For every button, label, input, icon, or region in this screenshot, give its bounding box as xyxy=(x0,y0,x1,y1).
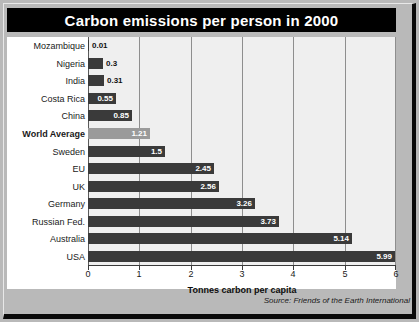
plot-area: 0.010.30.310.550.851.211.52.452.563.263.… xyxy=(88,37,396,265)
bar-value-label: 1.21 xyxy=(131,128,147,139)
bar-value-label: 0.55 xyxy=(97,93,113,104)
bar xyxy=(88,58,103,69)
bar-value-label: 0.31 xyxy=(107,75,123,86)
gridline-2 xyxy=(191,37,192,265)
gridline-4 xyxy=(293,37,294,265)
chart-title-banner: Carbon emissions per person in 2000 xyxy=(7,8,396,32)
bar-value-label: 3.26 xyxy=(236,198,252,209)
category-label: World Average xyxy=(22,129,85,140)
bar xyxy=(88,40,89,51)
x-tick-label: 2 xyxy=(188,269,193,279)
bar-value-label: 0.85 xyxy=(113,110,129,121)
category-label: Russian Fed. xyxy=(32,217,85,228)
bar xyxy=(88,181,219,192)
x-axis-title: Tonnes carbon per capita xyxy=(88,285,396,295)
bar-value-label: 0.01 xyxy=(92,40,108,51)
chart-plot-card: MozambiqueNigeriaIndiaCosta RicaChinaWor… xyxy=(7,37,396,289)
x-tick-label: 1 xyxy=(136,269,141,279)
category-label: Australia xyxy=(50,234,85,245)
category-label: UK xyxy=(72,182,85,193)
gridline-5 xyxy=(345,37,346,265)
category-label: Germany xyxy=(48,199,85,210)
bar xyxy=(88,75,104,86)
bar xyxy=(88,251,395,262)
source-note: Source: Friends of the Earth Internation… xyxy=(264,296,410,305)
chart-title: Carbon emissions per person in 2000 xyxy=(65,13,339,28)
x-axis: 0123456 xyxy=(88,265,396,274)
bar-value-label: 2.56 xyxy=(200,181,216,192)
gridline-6 xyxy=(395,37,396,265)
gridline-3 xyxy=(242,37,243,265)
bar-value-label: 1.5 xyxy=(151,146,162,157)
category-label: China xyxy=(61,111,85,122)
bar xyxy=(88,216,279,227)
category-label: Costa Rica xyxy=(41,94,85,105)
category-labels-column: MozambiqueNigeriaIndiaCosta RicaChinaWor… xyxy=(7,37,88,265)
bar-value-label: 5.14 xyxy=(333,233,349,244)
x-tick-label: 5 xyxy=(342,269,347,279)
bar-value-label: 0.3 xyxy=(106,58,117,69)
x-tick-label: 3 xyxy=(239,269,244,279)
x-tick-label: 6 xyxy=(393,269,398,279)
category-label: Mozambique xyxy=(33,41,85,52)
category-label: USA xyxy=(66,252,85,263)
x-tick-label: 4 xyxy=(290,269,295,279)
category-label: Sweden xyxy=(52,147,85,158)
category-label: EU xyxy=(72,164,85,175)
x-tick-label: 0 xyxy=(85,269,90,279)
chart-figure: Carbon emissions per person in 2000 Moza… xyxy=(0,0,419,322)
category-label: Nigeria xyxy=(56,59,85,70)
bar-value-label: 3.73 xyxy=(260,216,276,227)
bar xyxy=(88,198,255,209)
bar-value-label: 5.99 xyxy=(376,251,392,262)
bar-value-label: 2.45 xyxy=(195,163,211,174)
category-label: India xyxy=(65,76,85,87)
bar xyxy=(88,233,352,244)
